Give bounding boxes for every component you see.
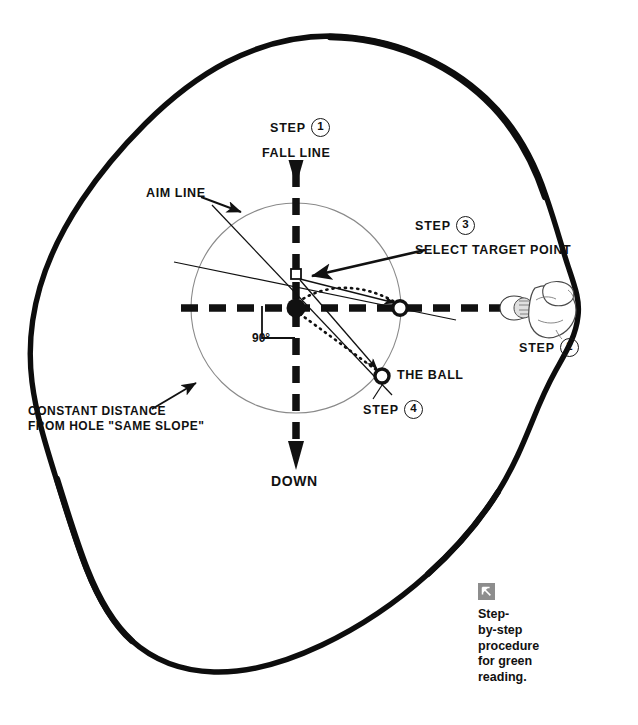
right-angle-label: 90°: [252, 331, 270, 345]
step-3-word: STEP: [415, 219, 451, 233]
fall-line-arrowhead: [289, 160, 304, 186]
step-4-label: STEP 4: [363, 400, 423, 419]
select-target-point-label: SELECT TARGET POINT: [415, 243, 571, 258]
caption-text: Step- by-step procedure for green readin…: [478, 607, 574, 686]
aim-point-marker: [393, 301, 407, 315]
ball-marker: [375, 369, 389, 383]
aim-line-upper: [212, 205, 392, 395]
target-to-ball-arrow: [300, 280, 377, 369]
down-arrowhead: [288, 441, 304, 470]
step-4-number: 4: [404, 400, 423, 419]
step-4-word: STEP: [363, 403, 399, 417]
step-1-word: STEP: [270, 121, 306, 135]
green-reading-diagram-page: STEP 1 FALL LINE AIM LINE STEP 3 SELECT …: [0, 0, 638, 725]
aim-line-label: AIM LINE: [146, 186, 206, 201]
fall-line-label: FALL LINE: [262, 146, 330, 161]
caption-block: Step- by-step procedure for green readin…: [478, 583, 574, 686]
the-ball-label: THE BALL: [397, 368, 464, 383]
step-2-word: STEP: [519, 341, 555, 355]
down-label: DOWN: [271, 473, 318, 490]
step-1-number: 1: [311, 118, 330, 137]
target-point-marker: [291, 269, 301, 279]
step-3-label: STEP 3: [415, 216, 475, 235]
putt-curve-to-ball: [300, 314, 379, 372]
arrow-up-left-icon: [478, 583, 495, 600]
select-target-point-arrow: [312, 250, 425, 276]
golfer-figure: [500, 282, 576, 339]
step4-leader-line: [373, 382, 384, 399]
aim-line-callout-arrow: [201, 197, 241, 212]
step-1-label: STEP 1: [270, 118, 330, 137]
step-2-number: 2: [560, 338, 579, 357]
constant-distance-line1: CONSTANT DISTANCE: [28, 404, 166, 418]
step-2-label: STEP 2: [519, 338, 579, 357]
hole-marker: [287, 299, 306, 318]
step-3-number: 3: [456, 216, 475, 235]
constant-distance-line2: FROM HOLE "SAME SLOPE": [28, 419, 204, 433]
